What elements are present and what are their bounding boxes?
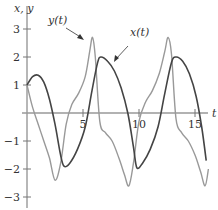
x-curve-arrow	[116, 46, 128, 59]
y-curve-arrowhead	[77, 34, 84, 40]
y-tick-label: −3	[4, 191, 20, 204]
y-tick-label: 2	[13, 51, 20, 64]
chart-canvas: 321−1−2−3 51015 x, y t y(t) x(t)	[0, 0, 218, 210]
y-tick-label: −1	[4, 135, 20, 148]
x-axis-label: t	[212, 107, 217, 120]
y-axis-label: x, y	[14, 2, 34, 15]
x-curve-label: x(t)	[130, 26, 149, 39]
y-curve-label: y(t)	[47, 14, 67, 27]
y-tick-label: −2	[4, 163, 20, 176]
y-tick-label: 3	[13, 23, 20, 36]
y-tick-label: 1	[13, 79, 20, 92]
